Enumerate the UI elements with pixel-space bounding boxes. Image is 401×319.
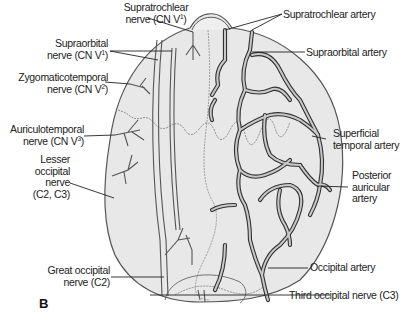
label-text: ) [105,49,108,61]
label-text: ) [105,83,108,95]
label-supratrochlear-artery: Supratrochlear artery [283,9,401,21]
label-lesser-occipital-nerve: Lesser occipital nerve (C2, C3) [10,154,70,200]
label-line: nerve (C2) [30,277,110,289]
label-supraorbital-nerve: Supraorbital nerve (CN V1) [20,38,108,61]
label-text: ) [183,13,186,25]
label-text: nerve (CN V [23,135,77,147]
label-supraorbital-artery: Supraorbital artery [306,47,401,59]
label-line: nerve (CN V3) [2,136,84,148]
label-third-occipital-nerve: Third occipital nerve (C3) [289,290,401,302]
label-line: Posterior [352,170,401,182]
label-occipital-artery: Occipital artery [310,262,401,274]
label-line: Third occipital nerve (C3) [289,290,401,302]
label-line: nerve [10,177,70,189]
label-text: nerve (CN V [47,83,101,95]
label-line: Supratrochlear artery [283,9,401,21]
label-superficial-temporal-artery: Superficial temporal artery [333,128,401,151]
label-text: ) [81,135,84,147]
label-line: nerve (CN V1) [20,50,108,62]
label-auriculotemporal-nerve: Auriculotemporal nerve (CN V3) [2,124,84,147]
label-text: nerve (CN V [126,13,180,25]
label-line: Lesser [10,154,70,166]
label-line: Superficial [333,128,401,140]
panel-label: B [39,296,48,311]
label-supratrochlear-nerve: Supratrochlear nerve (CN V1) [116,2,196,25]
label-line: temporal artery [333,140,401,152]
label-line: Occipital artery [310,262,401,274]
label-line: Great occipital [30,265,110,277]
label-line: nerve (CN V2) [4,84,108,96]
label-great-occipital-nerve: Great occipital nerve (C2) [30,265,110,288]
label-zygomaticotemporal-nerve: Zygomaticotemporal nerve (CN V2) [4,72,108,95]
label-line: nerve (CN V1) [116,14,196,26]
label-posterior-auricular-artery: Posterior auricular artery [352,170,401,205]
label-text: nerve (CN V [47,49,101,61]
label-line: (C2, C3) [10,189,70,201]
label-line: Supraorbital artery [306,47,401,59]
label-line: artery [352,193,401,205]
